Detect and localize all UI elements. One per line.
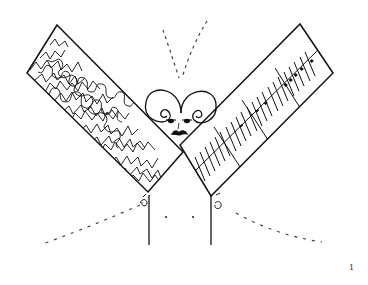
body-dots xyxy=(165,216,194,218)
scribble-fill xyxy=(30,39,161,184)
left-board xyxy=(27,25,183,192)
legs xyxy=(149,195,211,245)
hair-loop-right-icon xyxy=(181,91,216,123)
top-dashed-lines xyxy=(163,21,207,78)
right-board xyxy=(180,24,333,196)
mustache-icon xyxy=(172,131,187,135)
head xyxy=(145,90,216,135)
hands xyxy=(140,193,221,209)
page-number: 1 xyxy=(349,263,354,272)
illustration xyxy=(0,0,368,285)
hair-loop-left-icon xyxy=(145,90,181,122)
bottom-dotted-arcs xyxy=(40,205,322,245)
